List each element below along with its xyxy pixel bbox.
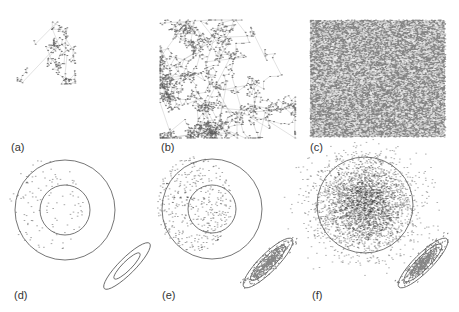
panel-label-e: (e) <box>162 289 175 301</box>
panel-e <box>157 157 301 294</box>
panel-c <box>310 20 446 137</box>
contour-ellipse-0 <box>99 238 156 295</box>
panel-d <box>10 160 156 294</box>
panel-label-c: (c) <box>310 141 323 153</box>
panel-label-f: (f) <box>312 289 322 301</box>
panel-b <box>160 20 296 138</box>
panel-label-a: (a) <box>11 141 24 153</box>
panel-label-b: (b) <box>161 141 174 153</box>
figure-canvas <box>0 0 459 312</box>
panel-label-d: (d) <box>14 289 27 301</box>
panel-a <box>17 22 76 84</box>
